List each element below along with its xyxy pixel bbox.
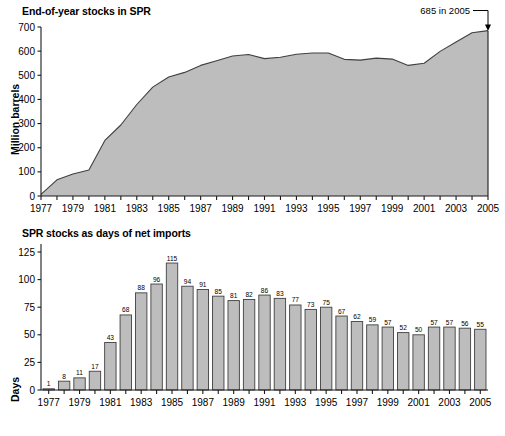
bar-group [320,307,331,390]
area-chart-y-tick-label: 700 [18,22,35,33]
area-chart-x-tick-label: 1995 [317,203,340,214]
bar-value-label: 43 [107,334,115,341]
bar[interactable] [120,315,131,390]
area-chart-x-tick-label: 1987 [190,203,213,214]
bar[interactable] [290,305,301,390]
bar-group [58,381,69,390]
area-chart-x-tick-label: 1977 [30,203,53,214]
bar-chart-x-tick-label: 1979 [68,397,91,408]
bar-value-label: 83 [276,290,284,297]
bar-chart-y-tick-label: 50 [24,329,36,340]
bar-group [428,327,439,390]
bar-chart-x-tick-label: 2003 [438,397,461,408]
bar-chart-x-tick-label: 1989 [223,397,246,408]
bar-group [382,327,393,390]
bar-chart-x-tick-label: 2001 [408,397,431,408]
bar[interactable] [105,343,116,390]
bar[interactable] [320,307,331,390]
bar-group [290,305,301,390]
bar-value-label: 73 [307,301,315,308]
bar[interactable] [413,335,424,390]
area-chart-x-tick-label: 1985 [158,203,181,214]
bar-group [398,333,409,390]
area-chart-panel: End-of-year stocks in SPR Million barrel… [0,0,505,222]
area-chart-y-tick-label: 100 [18,166,35,177]
bar-chart-y-tick-label: 75 [24,302,36,313]
bar[interactable] [351,322,362,390]
spr-figure: End-of-year stocks in SPR Million barrel… [0,0,505,436]
bar-group [182,286,193,390]
bar-chart-plot: 1811174368889611594918581828683777375676… [0,222,505,436]
bar-group [475,329,486,390]
bar-chart-x-tick-label: 1995 [315,397,338,408]
bar[interactable] [74,378,85,390]
bar[interactable] [305,309,316,390]
bar-chart-x-tick-label: 1977 [38,397,61,408]
bar-chart-x-tick-label: 2005 [469,397,492,408]
bar[interactable] [367,325,378,390]
bar-value-label: 91 [199,281,207,288]
area-chart-x-tick-label: 2005 [477,203,500,214]
bar-group [213,296,224,390]
bar[interactable] [197,290,208,390]
bar-value-label: 57 [430,319,438,326]
bar-value-label: 81 [230,292,238,299]
bar-group [444,327,455,390]
bar[interactable] [135,293,146,390]
bar-group [413,335,424,390]
bar[interactable] [475,329,486,390]
bar-chart-x-tick-label: 1999 [377,397,400,408]
bar[interactable] [166,263,177,390]
bar-value-label: 94 [184,278,192,285]
area-chart-x-tick-label: 1997 [349,203,372,214]
bar-chart-y-tick-label: 25 [24,357,36,368]
bar-group [351,322,362,390]
bar-value-label: 82 [245,291,253,298]
area-chart-annotation-label: 685 in 2005 [420,5,470,16]
bar[interactable] [151,284,162,390]
area-chart-x-tick-label: 1993 [285,203,308,214]
bar[interactable] [459,328,470,390]
bar[interactable] [382,327,393,390]
bar-value-label: 52 [400,324,408,331]
bar-chart-x-tick-label: 1987 [192,397,215,408]
bar-value-label: 68 [122,306,130,313]
bar-chart-x-tick-label: 1985 [161,397,184,408]
bar-value-label: 8 [62,373,66,380]
bar-value-label: 1 [47,380,51,387]
bar[interactable] [89,371,100,390]
area-chart-plot: 0100200300400500600700197719791981198319… [0,0,505,222]
area-chart-y-tick-label: 600 [18,46,35,57]
bar-group [89,371,100,390]
bar-chart-x-tick-label: 1997 [346,397,369,408]
bar[interactable] [398,333,409,390]
bar-chart-y-tick-label: 125 [18,247,35,258]
bar[interactable] [213,296,224,390]
bar[interactable] [58,381,69,390]
bar[interactable] [444,327,455,390]
bar-value-label: 85 [215,288,223,295]
annotation-arrowhead-icon [485,25,491,32]
bar-value-label: 75 [322,299,330,306]
bar[interactable] [336,316,347,390]
bar-value-label: 77 [292,296,300,303]
bar[interactable] [182,286,193,390]
area-chart-x-tick-label: 1983 [126,203,149,214]
area-chart-y-tick-label: 200 [18,142,35,153]
bar-value-label: 56 [461,320,469,327]
bar-group [336,316,347,390]
bar[interactable] [274,298,285,390]
bar[interactable] [259,295,270,390]
bar[interactable] [228,301,239,390]
bar-group [166,263,177,390]
bar-chart-y-tick-label: 100 [18,274,35,285]
area-chart-x-tick-label: 1979 [62,203,85,214]
bar-chart-x-tick-label: 1983 [130,397,153,408]
bar[interactable] [243,299,254,390]
bar-group [197,290,208,390]
area-chart-y-tick-label: 400 [18,94,35,105]
bar-group [305,309,316,390]
bar-chart-y-tick-label: 0 [29,385,35,396]
bar[interactable] [428,327,439,390]
bar-value-label: 57 [384,319,392,326]
